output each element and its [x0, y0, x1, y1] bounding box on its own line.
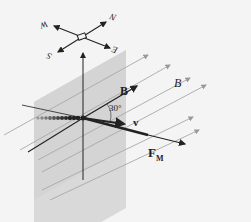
b-field-label: B: [174, 77, 181, 89]
angle-label: 30°: [109, 104, 122, 113]
diagram-canvas: [0, 0, 251, 222]
compass: [54, 22, 110, 52]
magnetic-force-diagram: W N E S B B 30° v FM: [0, 0, 251, 222]
b-vector-label: B: [120, 85, 128, 97]
force-label: FM: [148, 146, 164, 163]
force-label-subscript: M: [156, 154, 164, 163]
velocity-label: v: [133, 117, 139, 128]
force-label-main: F: [148, 145, 156, 160]
